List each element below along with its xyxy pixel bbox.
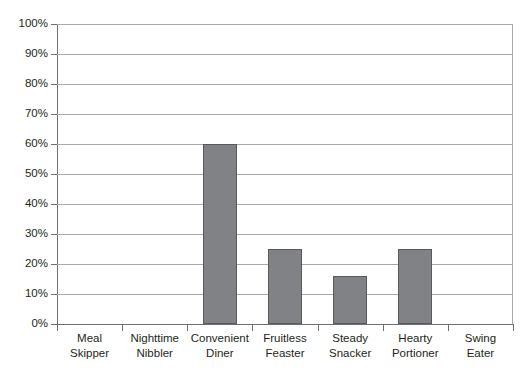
y-axis-tick <box>51 24 57 25</box>
category-label: MealSkipper <box>57 331 122 360</box>
category-label-line: Nibbler <box>122 346 187 361</box>
y-axis-tick <box>51 234 57 235</box>
category-label-line: Convenient <box>187 331 252 346</box>
y-axis-tick <box>51 144 57 145</box>
y-axis-tick-label: 50% <box>2 168 48 180</box>
y-axis-tick <box>51 264 57 265</box>
category-separator-tick <box>318 324 319 331</box>
gridline <box>57 114 513 115</box>
category-label-line: Skipper <box>57 346 122 361</box>
y-axis-tick-label: 70% <box>2 108 48 120</box>
category-label: NighttimeNibbler <box>122 331 187 360</box>
y-axis-tick-label: 100% <box>2 18 48 30</box>
y-axis-tick-label: 0% <box>2 318 48 330</box>
category-label-line: Nighttime <box>122 331 187 346</box>
y-axis-tick <box>51 54 57 55</box>
gridline <box>57 144 513 145</box>
y-axis-tick <box>51 204 57 205</box>
y-axis-tick-label: 10% <box>2 288 48 300</box>
gridline <box>57 234 513 235</box>
y-axis-tick <box>51 84 57 85</box>
y-axis-tick-label: 20% <box>2 258 48 270</box>
gridline <box>57 174 513 175</box>
category-separator-tick <box>448 324 449 331</box>
category-label: FruitlessFeaster <box>252 331 317 360</box>
y-axis-tick-label: 30% <box>2 228 48 240</box>
category-label-line: Swing <box>448 331 513 346</box>
y-axis-tick <box>51 114 57 115</box>
bar-chart-figure: 0%10%20%30%40%50%60%70%80%90%100% MealSk… <box>0 0 528 380</box>
category-separator-tick <box>252 324 253 331</box>
category-label: SwingEater <box>448 331 513 360</box>
gridline <box>57 54 513 55</box>
category-label-line: Snacker <box>318 346 383 361</box>
y-axis-tick <box>51 324 57 325</box>
category-label: ConvenientDiner <box>187 331 252 360</box>
gridline <box>57 24 513 25</box>
y-axis-tick <box>51 174 57 175</box>
category-label-line: Eater <box>448 346 513 361</box>
y-axis-labels: 0%10%20%30%40%50%60%70%80%90%100% <box>0 0 48 380</box>
category-label: HeartyPortioner <box>383 331 448 360</box>
y-axis-tick <box>51 294 57 295</box>
bar <box>268 249 302 324</box>
y-axis-tick-label: 90% <box>2 48 48 60</box>
category-label: SteadySnacker <box>318 331 383 360</box>
bar <box>398 249 432 324</box>
category-separator-tick <box>57 324 58 331</box>
category-label-line: Portioner <box>383 346 448 361</box>
y-axis-tick-label: 40% <box>2 198 48 210</box>
category-separator-tick <box>513 324 514 331</box>
bar <box>203 144 237 324</box>
category-label-line: Steady <box>318 331 383 346</box>
category-label-line: Feaster <box>252 346 317 361</box>
cropped-caption <box>0 372 528 380</box>
category-separator-tick <box>383 324 384 331</box>
category-label-line: Hearty <box>383 331 448 346</box>
category-separator-tick <box>187 324 188 331</box>
category-separator-tick <box>122 324 123 331</box>
y-axis-tick-label: 60% <box>2 138 48 150</box>
category-label-line: Diner <box>187 346 252 361</box>
bar <box>333 276 367 324</box>
y-axis-tick-label: 80% <box>2 78 48 90</box>
gridline <box>57 204 513 205</box>
category-label-line: Fruitless <box>252 331 317 346</box>
gridline <box>57 324 513 325</box>
gridline <box>57 84 513 85</box>
plot-area <box>57 24 513 324</box>
category-label-line: Meal <box>57 331 122 346</box>
